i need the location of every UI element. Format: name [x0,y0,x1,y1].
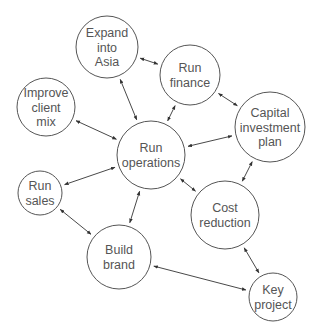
node-label: mix [36,115,56,129]
edge-cost-key [244,248,259,273]
network-diagram: ExpandintoAsiaRunfinanceImproveclientmix… [0,0,319,336]
node-label: Run [29,179,52,193]
node-label: operations [122,156,180,170]
edge-brand-key [154,266,246,290]
node-label: project [254,298,292,312]
node-label: Run [140,141,163,155]
edge-operations-capital [188,136,232,146]
node-finance: Runfinance [160,45,220,105]
node-operations: Runoperations [117,121,185,189]
node-label: sales [25,194,54,208]
node-label: into [97,41,117,55]
edge-operations-sales [65,167,115,184]
node-label: Cost [212,201,238,215]
node-capital: Capitalinvestmentplan [235,92,305,162]
edge-expand-finance [140,58,158,64]
node-label: client [31,101,61,115]
node-label: reduction [199,216,250,230]
node-label: Expand [86,26,128,40]
edge-finance-operations [168,106,175,121]
node-client: Improveclientmix [17,78,75,136]
node-label: Improve [23,86,68,100]
node-label: brand [103,258,135,272]
node-key: Keyproject [249,273,297,321]
edge-operations-brand [130,191,140,222]
node-label: Capital [251,106,290,120]
node-label: investment [240,121,301,135]
edge-client-operations [76,121,116,140]
node-expand: ExpandintoAsia [76,16,138,78]
nodes-layer: ExpandintoAsiaRunfinanceImproveclientmix… [17,16,305,321]
node-label: plan [258,135,282,149]
node-cost: Costreduction [191,181,259,249]
node-label: finance [170,76,210,90]
edge-operations-cost [181,179,196,191]
edge-expand-operations [120,79,137,119]
node-label: Asia [95,55,119,69]
edge-finance-capital [219,94,238,106]
node-label: Key [262,283,284,297]
node-label: Run [179,61,202,75]
edge-capital-cost [242,162,252,182]
node-brand: Buildbrand [87,225,151,289]
node-sales: Runsales [18,171,62,215]
node-label: Build [105,243,133,257]
edge-sales-brand [60,209,91,234]
